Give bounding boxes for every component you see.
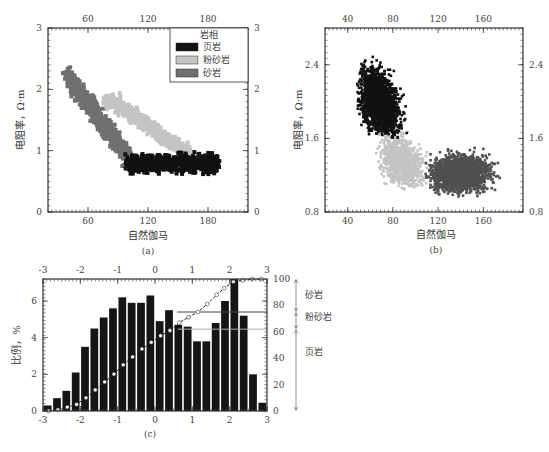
svg-text:-2: -2 [76,265,85,275]
panel-a: 606012012018018000112233 岩相 页岩 粉砂岩 砂岩 自然… [14,14,260,256]
svg-text:3: 3 [264,415,270,425]
svg-text:0: 0 [31,406,37,416]
legend-label-shale: 页岩 [203,41,221,52]
caption-b: (b) [430,245,443,255]
svg-text:2: 2 [227,415,233,425]
annotation-shale: 页岩 [305,346,323,357]
legend-swatch-shale [176,43,198,51]
svg-text:1: 1 [189,415,195,425]
svg-text:2.4: 2.4 [529,60,544,70]
legend-a: 岩相 页岩 粉砂岩 砂岩 [170,28,248,82]
svg-text:4: 4 [31,333,37,343]
svg-text:-3: -3 [39,415,48,425]
svg-text:60: 60 [82,216,94,226]
svg-text:40: 40 [273,353,285,363]
ylabel-c: 比例，% [10,325,22,365]
svg-text:1.6: 1.6 [305,133,320,143]
annotation-siltstone: 粉砂岩 [305,311,332,322]
svg-text:-1: -1 [113,265,122,275]
svg-text:-3: -3 [39,265,48,275]
svg-text:0: 0 [152,415,158,425]
svg-text:-1: -1 [113,415,122,425]
svg-text:100: 100 [273,274,290,284]
svg-text:1.6: 1.6 [529,133,544,143]
svg-text:0.8: 0.8 [529,207,544,217]
panel-c: -3-3-2-2-1-1001122330246020406080100 (c)… [10,265,332,439]
svg-text:0: 0 [152,265,158,275]
svg-text:0.8: 0.8 [305,207,320,217]
svg-text:40: 40 [342,14,354,24]
svg-text:20: 20 [273,380,285,390]
svg-text:2: 2 [254,84,260,94]
svg-text:120: 120 [139,14,156,24]
svg-text:160: 160 [475,216,492,226]
svg-text:0: 0 [254,207,260,217]
svg-text:60: 60 [82,14,94,24]
svg-text:80: 80 [387,216,399,226]
svg-text:2: 2 [36,84,42,94]
xlabel-a: 自然伽马 [128,229,168,241]
svg-text:3: 3 [264,265,270,275]
svg-text:3: 3 [36,23,42,33]
ylabel-a: 电阻率，Ω·m [14,89,26,150]
svg-text:180: 180 [199,216,216,226]
svg-text:1: 1 [189,265,195,275]
svg-text:80: 80 [273,300,285,310]
svg-text:1: 1 [254,146,260,156]
svg-text:-2: -2 [76,415,85,425]
svg-text:3: 3 [254,23,260,33]
axis-ticks-b: 404080801201201601600.80.81.61.62.42.4 [305,14,544,226]
svg-text:1: 1 [36,146,42,156]
caption-c: (c) [144,429,156,439]
svg-text:160: 160 [475,14,492,24]
svg-text:2: 2 [31,369,37,379]
scatter-points-b [356,56,501,198]
legend-label-sandstone: 砂岩 [203,67,221,78]
legend-swatch-sandstone [176,69,198,77]
svg-text:60: 60 [273,327,285,337]
histogram-bars [44,279,266,411]
svg-text:2.4: 2.4 [305,60,320,70]
legend-swatch-siltstone [176,56,198,64]
svg-text:180: 180 [199,14,216,24]
figure-canvas: 606012012018018000112233 岩相 页岩 粉砂岩 砂岩 自然… [0,0,549,452]
facies-annotation [294,280,298,411]
svg-text:2: 2 [227,265,233,275]
ylabel-b: 电阻率，Ω·m [292,89,304,150]
svg-text:120: 120 [139,216,156,226]
svg-text:0: 0 [36,207,42,217]
svg-text:120: 120 [430,216,447,226]
svg-text:40: 40 [342,216,354,226]
legend-label-siltstone: 粉砂岩 [203,54,230,65]
xlabel-b: 自然伽马 [416,228,456,240]
svg-text:120: 120 [430,14,447,24]
caption-a: (a) [142,246,154,256]
svg-text:0: 0 [273,406,279,416]
plot-frame-b [325,28,523,212]
annotation-sandstone: 砂岩 [305,289,323,300]
svg-text:6: 6 [31,296,37,306]
svg-text:80: 80 [387,14,399,24]
panel-b: 404080801201201601600.80.81.61.62.42.4 自… [292,14,544,255]
legend-title: 岩相 [200,29,218,40]
